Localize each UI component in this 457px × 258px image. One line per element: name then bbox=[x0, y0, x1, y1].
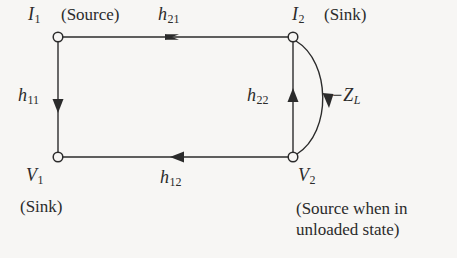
node-label-v1: V1 bbox=[26, 166, 44, 186]
node-v2[interactable] bbox=[288, 152, 298, 162]
node-i1[interactable] bbox=[53, 32, 63, 42]
role-label-source-bottom-right: (Source when in unloaded state) bbox=[296, 198, 446, 241]
edge-h22-arrowhead bbox=[288, 88, 299, 102]
edge-h11-arrowhead bbox=[53, 99, 64, 113]
role-label-source-top-left: (Source) bbox=[61, 6, 120, 23]
role-label-sink-top-right: (Sink) bbox=[324, 6, 367, 23]
edge-label-h12: h12 bbox=[160, 168, 182, 188]
signal-flow-graph-figure: I1 (Source) h21 I2 (Sink) h11 h22 −ZL V1… bbox=[0, 0, 457, 258]
edge-zl-arc bbox=[296, 41, 323, 154]
edge-label-h11: h11 bbox=[18, 86, 39, 106]
edge-h12-arrowhead bbox=[170, 152, 184, 163]
node-v1[interactable] bbox=[53, 152, 63, 162]
role-label-sink-bottom-left: (Sink) bbox=[20, 198, 63, 215]
node-label-i1: I1 bbox=[28, 5, 41, 25]
node-i2[interactable] bbox=[288, 32, 298, 42]
edge-label-h22: h22 bbox=[247, 86, 269, 106]
node-label-v2: V2 bbox=[298, 166, 316, 186]
node-label-i2: I2 bbox=[292, 5, 305, 25]
edge-label-negative-zl: −ZL bbox=[331, 86, 360, 106]
edge-label-h21: h21 bbox=[158, 5, 180, 25]
